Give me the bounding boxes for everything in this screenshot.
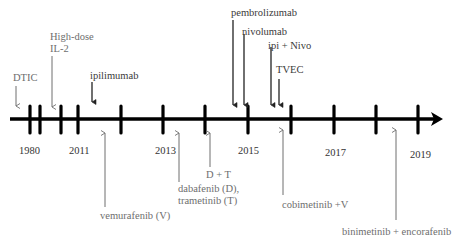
event-label-high-dose-il2-line2: IL-2 — [50, 43, 69, 55]
year-label-2015: 2015 — [238, 145, 259, 157]
event-label-vemurafenib: vemurafenib (V) — [100, 210, 170, 222]
event-label-dabrafenib-line1: dabafenib (D), — [178, 183, 239, 195]
event-label-dtic: DTIC — [13, 72, 38, 84]
event-label-pembrolizumab: pembrolizumab — [231, 7, 297, 19]
event-label-ipilimumab: ipilimumab — [90, 70, 138, 82]
timeline-diagram: 1980 2011 2013 2015 2017 2019 DTIC High-… — [0, 0, 452, 244]
event-label-high-dose-il2-line1: High-dose — [50, 31, 94, 43]
year-label-2019: 2019 — [410, 149, 431, 161]
timeline-axis — [10, 112, 443, 126]
event-label-d-plus-t: D + T — [206, 169, 231, 181]
event-label-binimetinib-encorafenib: binimetinib + encorafenib — [342, 226, 451, 238]
year-label-2013: 2013 — [155, 145, 176, 157]
event-label-ipi-nivo: ipi + Nivo — [268, 40, 311, 52]
event-label-tvec: TVEC — [276, 64, 303, 76]
year-label-2017: 2017 — [325, 147, 346, 159]
event-label-nivolumab: nivolumab — [242, 26, 287, 38]
event-label-dabrafenib-line2: trametinib (T) — [178, 195, 237, 207]
year-label-1980: 1980 — [19, 145, 40, 157]
year-label-2011: 2011 — [69, 145, 90, 157]
event-label-cobimetinib: cobimetinib +V — [282, 199, 348, 211]
